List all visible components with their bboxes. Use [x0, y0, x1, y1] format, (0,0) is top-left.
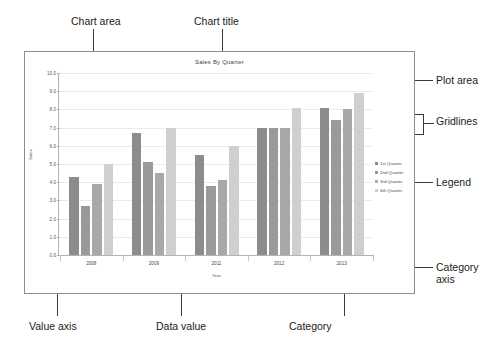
bar-2012-2nd-quarter[interactable]	[269, 128, 279, 255]
gridline	[60, 91, 373, 92]
value-axis-label: 5.0	[34, 162, 56, 167]
callout-plot-area: Plot area	[436, 74, 478, 86]
value-axis-tick	[57, 91, 60, 92]
legend-item-3rd-quarter[interactable]: 3rd Quarter	[375, 177, 419, 186]
bar-2013-1st-quarter[interactable]	[320, 108, 330, 255]
category-axis-title: Year	[60, 273, 373, 278]
bar-2008-1st-quarter[interactable]	[69, 177, 79, 255]
bar-2011-2nd-quarter[interactable]	[206, 186, 216, 255]
bar-2009-4th-quarter[interactable]	[166, 128, 176, 255]
category-label-2012: 2012	[249, 261, 309, 266]
legend-label: 2nd Quarter	[380, 170, 403, 175]
legend-swatch-icon	[375, 162, 378, 165]
chart-title: Sales By Quarter	[25, 59, 414, 65]
legend-item-1st-quarter[interactable]: 1st Quarter	[375, 159, 419, 168]
value-axis-label: 9.0	[34, 89, 56, 94]
bar-2012-4th-quarter[interactable]	[292, 108, 302, 255]
category-label-2013: 2013	[312, 261, 372, 266]
callout-gridlines: Gridlines	[436, 115, 477, 127]
value-axis-label: 1.0	[34, 235, 56, 240]
value-axis[interactable]: 10.09.08.07.06.05.04.03.02.01.00.0	[58, 73, 61, 256]
gridline	[60, 73, 373, 74]
bar-2009-3rd-quarter[interactable]	[155, 173, 165, 255]
value-axis-tick	[57, 219, 60, 220]
value-axis-label: 3.0	[34, 198, 56, 203]
legend-swatch-icon	[375, 189, 378, 192]
category-label-2009: 2009	[124, 261, 184, 266]
callout-data-value: Data value	[156, 320, 206, 332]
value-axis-label: 2.0	[34, 217, 56, 222]
legend-item-4th-quarter[interactable]: 4th Quarter	[375, 186, 419, 195]
value-axis-tick	[57, 237, 60, 238]
chart-area: Sales By Quarter Sales 10.09.08.07.06.05…	[24, 51, 415, 294]
bar-2011-1st-quarter[interactable]	[195, 155, 205, 255]
category-label-2008: 2008	[61, 261, 121, 266]
bar-2008-3rd-quarter[interactable]	[92, 184, 102, 255]
bar-2012-3rd-quarter[interactable]	[280, 128, 290, 255]
value-axis-tick	[57, 200, 60, 201]
bar-2011-3rd-quarter[interactable]	[218, 180, 228, 255]
value-axis-label: 4.0	[34, 180, 56, 185]
legend-item-2nd-quarter[interactable]: 2nd Quarter	[375, 168, 419, 177]
legend-swatch-icon	[375, 171, 378, 174]
category-label-2011: 2011	[187, 261, 247, 266]
value-axis-tick	[57, 182, 60, 183]
callout-category-axis: Categoryaxis	[436, 261, 488, 285]
callout-legend: Legend	[436, 176, 471, 188]
value-axis-label: 6.0	[34, 144, 56, 149]
value-axis-title: Sales	[28, 149, 33, 160]
bar-2011-4th-quarter[interactable]	[229, 146, 239, 255]
callout-value-axis: Value axis	[29, 320, 77, 332]
bar-2008-2nd-quarter[interactable]	[81, 206, 91, 255]
value-axis-label: 0.0	[34, 253, 56, 258]
bar-2012-1st-quarter[interactable]	[257, 128, 267, 255]
callout-category-axis-line1: Category	[436, 261, 479, 273]
callout-chart-area: Chart area	[71, 15, 121, 27]
value-axis-tick	[57, 128, 60, 129]
legend-label: 3rd Quarter	[380, 179, 402, 184]
value-axis-tick	[57, 73, 60, 74]
value-axis-label: 8.0	[34, 107, 56, 112]
legend-label: 1st Quarter	[380, 161, 402, 166]
value-axis-tick	[57, 146, 60, 147]
callout-category: Category	[289, 320, 332, 332]
value-axis-label: 7.0	[34, 126, 56, 131]
legend-swatch-icon	[375, 180, 378, 183]
value-axis-tick	[57, 109, 60, 110]
bar-2013-2nd-quarter[interactable]	[331, 120, 341, 255]
bar-2009-2nd-quarter[interactable]	[143, 162, 153, 255]
callout-category-axis-line2: axis	[436, 273, 455, 285]
bar-2013-3rd-quarter[interactable]	[343, 109, 353, 255]
category-axis-tick	[373, 256, 374, 261]
leader-line-gridlines	[423, 123, 434, 124]
category-axis[interactable]	[60, 255, 374, 256]
legend-label: 4th Quarter	[380, 188, 402, 193]
legend[interactable]: 1st Quarter2nd Quarter3rd Quarter4th Qua…	[375, 159, 419, 195]
bar-2008-4th-quarter[interactable]	[104, 164, 114, 255]
bar-2013-4th-quarter[interactable]	[354, 93, 364, 255]
bar-2009-1st-quarter[interactable]	[132, 133, 142, 255]
callout-chart-title: Chart title	[194, 15, 239, 27]
value-axis-label: 10.0	[34, 71, 56, 76]
plot-area	[60, 73, 373, 255]
value-axis-tick	[57, 164, 60, 165]
